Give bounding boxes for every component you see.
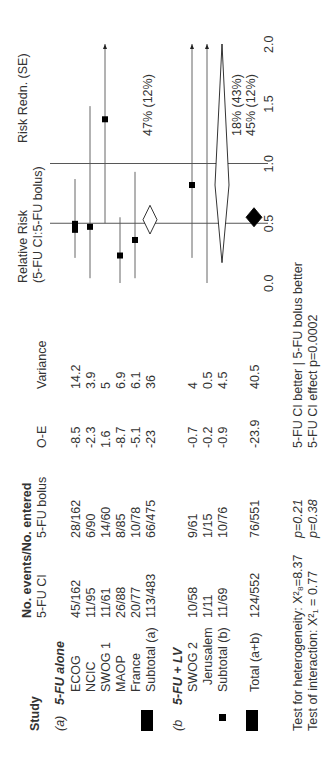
point-estimate-square — [189, 182, 195, 188]
point-estimate-square — [87, 224, 93, 230]
point-estimate-square — [72, 221, 78, 233]
point-estimate-square — [132, 237, 138, 243]
ci-diamond — [215, 44, 229, 263]
ci-diamond — [246, 208, 262, 227]
forest-plot — [0, 0, 336, 761]
ci-arrow — [190, 44, 194, 49]
point-estimate-square — [102, 116, 108, 122]
ci-arrow — [205, 44, 209, 49]
ci-arrow — [103, 44, 107, 49]
ci-diamond — [143, 205, 157, 234]
point-estimate-square — [117, 253, 123, 259]
forest-plot-figure: Study No. events/No. entered 5-FU CI 5-F… — [0, 0, 336, 761]
